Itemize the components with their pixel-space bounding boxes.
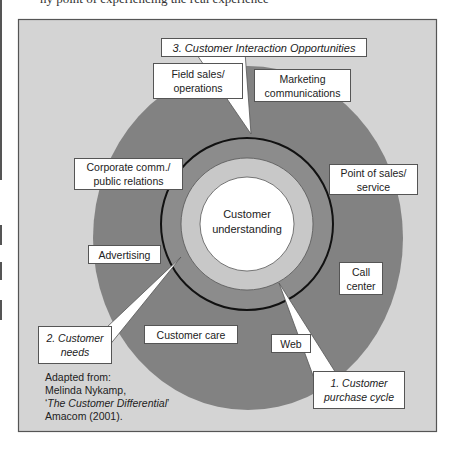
source-text: Amacom (2001).	[45, 410, 169, 423]
channel-text: Marketing	[279, 72, 325, 86]
quote-mark: ’	[167, 397, 169, 409]
channel-text: Advertising	[99, 248, 151, 262]
book-title: The Customer Differential	[47, 397, 167, 409]
channel-text: Point of sales/	[341, 166, 407, 180]
channel-web: Web	[271, 334, 311, 353]
customer-needs-callout: 2. Customer needs	[38, 326, 112, 364]
channel-text: Corporate comm./	[86, 160, 170, 174]
callout-text: 2. Customer	[46, 331, 103, 345]
source-title-line: ‘The Customer Differential’	[45, 397, 169, 410]
callout-text: purchase cycle	[324, 390, 394, 404]
channel-text: operations	[173, 81, 222, 95]
channel-field-sales: Field sales/ operations	[153, 63, 243, 99]
channel-text: Field sales/	[171, 67, 224, 81]
source-text: Adapted from:	[45, 371, 169, 384]
channel-text: center	[346, 279, 375, 293]
channel-call-center: Call center	[339, 262, 383, 295]
channel-text: Web	[280, 337, 301, 351]
channel-corporate-communications: Corporate comm./ public relations	[74, 158, 183, 190]
channel-text: communications	[265, 86, 341, 100]
customer-understanding-label: Customer understanding	[200, 207, 294, 237]
channel-text: Call	[352, 265, 370, 279]
channel-text: Customer care	[157, 328, 226, 342]
core-text: understanding	[200, 222, 294, 237]
core-text: Customer	[200, 207, 294, 222]
source-text: Melinda Nykamp,	[45, 384, 169, 397]
callout-text: needs	[61, 345, 90, 359]
channel-point-of-sales: Point of sales/ service	[329, 164, 418, 195]
channel-advertising: Advertising	[88, 245, 161, 264]
channel-text: service	[357, 180, 390, 194]
purchase-cycle-callout: 1. Customer purchase cycle	[313, 371, 405, 409]
source-citation: Adapted from: Melinda Nykamp, ‘The Custo…	[45, 371, 169, 423]
interaction-opportunities-callout: 3. Customer Interaction Opportunities	[161, 38, 367, 57]
channel-marketing-communications: Marketing communications	[254, 69, 351, 102]
callout-text: 3. Customer Interaction Opportunities	[173, 41, 356, 55]
callout-text: 1. Customer	[330, 376, 387, 390]
channel-customer-care: Customer care	[144, 325, 238, 344]
channel-text: public relations	[93, 174, 163, 188]
